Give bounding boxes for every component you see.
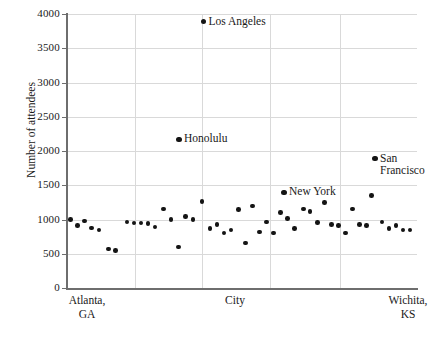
gridline-vertical <box>202 14 203 288</box>
data-point <box>271 231 276 236</box>
y-axis-tick-label: 500 <box>2 248 60 259</box>
data-point <box>229 228 234 233</box>
gridline-horizontal <box>67 14 417 15</box>
data-point <box>169 217 174 222</box>
point-annotation-label: Los Angeles <box>209 15 266 28</box>
scatter-plot-figure: Los AngelesHonoluluNew YorkSan Francisco… <box>0 0 447 338</box>
data-point <box>301 207 306 212</box>
x-axis-line <box>66 288 418 290</box>
y-axis-tick-mark <box>62 117 66 118</box>
data-point-labeled <box>201 19 206 24</box>
data-point <box>89 226 94 231</box>
data-point <box>329 222 334 227</box>
gridline-horizontal <box>67 117 417 118</box>
x-axis-label-right: Wichita, KS <box>372 293 444 321</box>
y-axis-tick-mark <box>62 254 66 255</box>
data-point <box>308 209 313 214</box>
gridline-horizontal <box>67 220 417 221</box>
data-point <box>350 207 355 212</box>
data-point <box>408 228 413 233</box>
data-point <box>285 216 290 221</box>
data-point <box>191 217 196 222</box>
y-axis-tick-mark <box>62 14 66 15</box>
y-axis-tick-label: 4000 <box>2 8 60 19</box>
data-point <box>200 199 205 204</box>
data-point <box>387 226 392 231</box>
gridline-horizontal <box>67 48 417 49</box>
data-point <box>343 231 348 236</box>
y-axis-tick-mark <box>62 48 66 49</box>
y-axis-tick-mark <box>62 83 66 84</box>
data-point <box>75 223 80 228</box>
data-point <box>250 204 255 209</box>
gridline-vertical <box>340 14 341 288</box>
data-point <box>336 223 341 228</box>
plot-area: Los AngelesHonoluluNew YorkSan Francisco <box>67 14 417 288</box>
y-axis-tick-mark <box>62 288 66 289</box>
data-point <box>364 223 369 228</box>
data-point <box>215 222 220 227</box>
data-point <box>278 210 283 215</box>
data-point <box>106 247 111 252</box>
data-point <box>322 200 327 205</box>
data-point <box>208 226 213 231</box>
gridline-horizontal <box>67 254 417 255</box>
data-point <box>357 222 362 227</box>
data-point <box>243 241 248 246</box>
data-point <box>236 207 241 212</box>
data-point <box>394 223 399 228</box>
data-point <box>82 219 87 224</box>
data-point <box>222 231 227 236</box>
data-point <box>380 220 385 225</box>
data-point-labeled <box>176 137 181 142</box>
y-axis-tick-mark <box>62 220 66 221</box>
x-axis-label-left: Atlanta, GA <box>52 293 122 321</box>
data-point <box>146 221 151 226</box>
point-annotation-label: San Francisco <box>380 152 425 177</box>
data-point <box>161 207 166 212</box>
gridline-horizontal <box>67 83 417 84</box>
y-axis-title: Number of attendees <box>25 50 37 210</box>
point-annotation-label: Honolulu <box>184 132 227 145</box>
data-point <box>257 230 262 235</box>
data-point <box>401 228 406 233</box>
y-axis-tick-label: 0 <box>2 282 60 293</box>
gridline-horizontal <box>67 185 417 186</box>
y-axis-tick-mark <box>62 151 66 152</box>
data-point-labeled <box>281 190 286 195</box>
data-point <box>183 214 188 219</box>
data-point-labeled <box>372 156 377 161</box>
point-annotation-label: New York <box>289 185 336 198</box>
x-axis-label-center: City <box>200 293 270 307</box>
gridline-vertical <box>135 14 136 288</box>
data-point <box>292 226 297 231</box>
data-point <box>97 228 102 233</box>
y-axis-line <box>66 13 68 289</box>
data-point <box>113 248 118 253</box>
gridline-vertical <box>270 14 271 288</box>
data-point <box>264 220 269 225</box>
y-axis-tick-mark <box>62 185 66 186</box>
data-point <box>139 221 144 226</box>
data-point <box>125 220 130 225</box>
data-point <box>315 220 320 225</box>
data-point <box>153 225 158 230</box>
y-axis-tick-label: 1000 <box>2 214 60 225</box>
data-point <box>176 245 181 250</box>
gridline-horizontal <box>67 151 417 152</box>
data-point <box>68 217 73 222</box>
data-point <box>369 193 374 198</box>
data-point <box>132 221 137 226</box>
